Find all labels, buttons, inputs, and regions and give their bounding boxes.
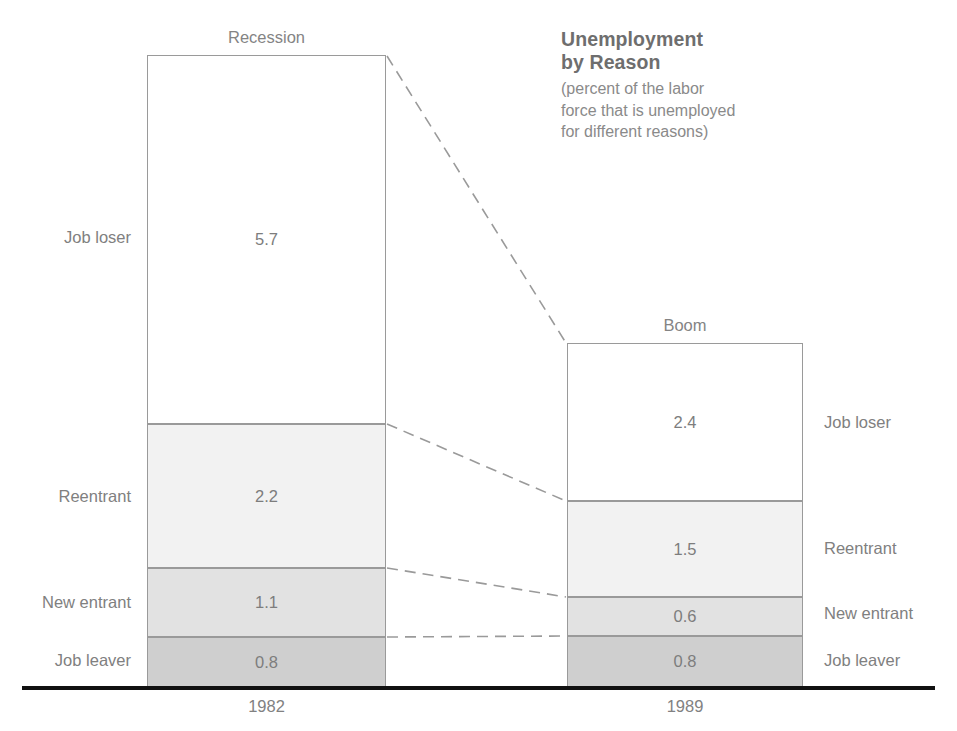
value-1989-new-entrant: 0.6 <box>674 607 697 626</box>
chart-subtitle-line1: (percent of the labor <box>561 78 801 100</box>
segment-1989-job-loser: 2.4 <box>567 343 803 501</box>
label-1982-reentrant: Reentrant <box>0 487 131 506</box>
chart-subtitle-line2: force that is unemployed <box>561 100 801 122</box>
connector-new-entrant-top <box>387 568 566 597</box>
label-1989-reentrant: Reentrant <box>824 539 896 558</box>
axis-label-1982: 1982 <box>147 697 386 716</box>
label-1982-job-leaver: Job leaver <box>0 651 131 670</box>
caption-recession: Recession <box>147 28 386 47</box>
chart-title: Unemployment by Reason <box>561 28 801 74</box>
chart-canvas: Unemployment by Reason (percent of the l… <box>0 0 957 731</box>
connector-job-loser-top <box>387 56 566 343</box>
connector-reentrant-top <box>387 424 566 501</box>
value-1989-job-leaver: 0.8 <box>674 652 697 671</box>
segment-1982-new-entrant: 1.1 <box>147 568 386 637</box>
chart-title-line2: by Reason <box>561 51 801 74</box>
value-1989-job-loser: 2.4 <box>674 413 697 432</box>
value-1989-reentrant: 1.5 <box>674 540 697 559</box>
bar-1982: 5.7 2.2 1.1 0.8 <box>147 55 386 687</box>
connector-job-leaver-top <box>387 636 566 637</box>
chart-title-block: Unemployment by Reason (percent of the l… <box>561 28 801 143</box>
connector-lines <box>0 0 957 731</box>
label-1989-job-loser: Job loser <box>824 413 891 432</box>
label-1989-new-entrant: New entrant <box>824 604 913 623</box>
chart-subtitle-line3: for different reasons) <box>561 121 801 143</box>
value-1982-reentrant: 2.2 <box>255 487 278 506</box>
segment-1982-job-loser: 5.7 <box>147 55 386 424</box>
segment-1982-job-leaver: 0.8 <box>147 637 386 687</box>
chart-subtitle: (percent of the labor force that is unem… <box>561 78 801 143</box>
caption-boom: Boom <box>567 316 803 335</box>
segment-1989-new-entrant: 0.6 <box>567 597 803 636</box>
value-1982-job-leaver: 0.8 <box>255 653 278 672</box>
chart-title-line1: Unemployment <box>561 28 801 51</box>
bar-1989: 2.4 1.5 0.6 0.8 <box>567 343 803 687</box>
segment-1989-reentrant: 1.5 <box>567 501 803 597</box>
label-1982-new-entrant: New entrant <box>0 593 131 612</box>
axis-label-1989: 1989 <box>567 697 803 716</box>
segment-1989-job-leaver: 0.8 <box>567 636 803 687</box>
label-1982-job-loser: Job loser <box>0 228 131 247</box>
value-1982-new-entrant: 1.1 <box>255 593 278 612</box>
segment-1982-reentrant: 2.2 <box>147 424 386 568</box>
axis-baseline <box>22 686 935 690</box>
label-1989-job-leaver: Job leaver <box>824 651 900 670</box>
value-1982-job-loser: 5.7 <box>255 230 278 249</box>
